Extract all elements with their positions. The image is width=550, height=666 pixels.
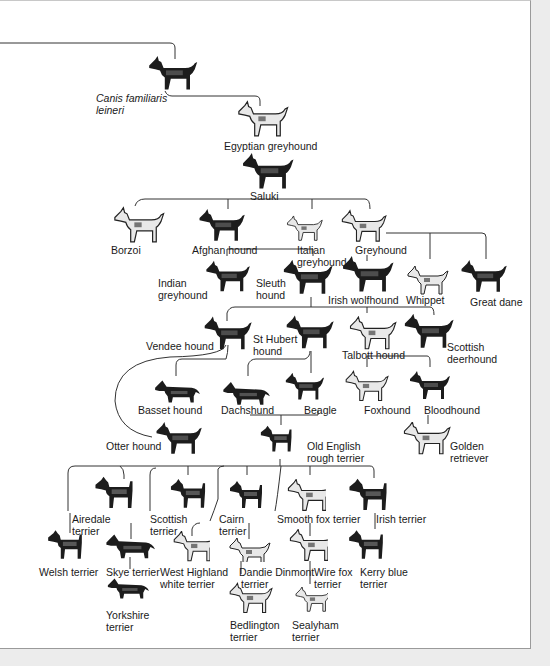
- dog-illustration-irishterrier: [346, 477, 390, 515]
- label-irishterrier: Irish terrier: [376, 514, 426, 526]
- dog-illustration-yorkshire: [105, 576, 149, 602]
- dog-illustration-indian: [202, 257, 252, 297]
- label-saluki: Saluki: [250, 191, 279, 203]
- label-oldenglish: Old English rough terrier: [307, 441, 364, 464]
- dog-illustration-kerry: [346, 529, 386, 563]
- dog-illustration-smoothfox: [284, 479, 326, 513]
- label-egyptian: Egyptian greyhound: [224, 141, 317, 153]
- label-whippet: Whippet: [406, 295, 445, 307]
- label-italian: Italian greyhound: [297, 245, 347, 268]
- label-sthubert: St Hubert hound: [253, 334, 297, 357]
- label-foxhound: Foxhound: [364, 405, 411, 417]
- dog-illustration-saluki: [238, 153, 296, 191]
- dog-illustration-greatdane: [457, 257, 509, 297]
- dog-illustration-beagle: [282, 369, 326, 405]
- label-borzoi: Borzoi: [111, 245, 141, 257]
- label-bloodhound: Bloodhound: [424, 405, 480, 417]
- dog-illustration-wirefox: [286, 529, 328, 563]
- label-westie: West Highland white terrier: [160, 567, 228, 590]
- label-welsh: Welsh terrier: [39, 567, 98, 579]
- label-yorkshire: Yorkshire terrier: [106, 610, 149, 633]
- dog-illustration-afghan: [195, 206, 247, 246]
- dog-illustration-basset: [152, 378, 200, 406]
- label-airedale: Airedale terrier: [72, 514, 111, 537]
- label-scotdeer: Scottish deerhound: [447, 342, 497, 365]
- label-greyhound: Greyhound: [355, 245, 407, 257]
- dog-illustration-golden: [396, 422, 456, 456]
- dog-illustration-skye: [103, 533, 155, 561]
- label-indian: Indian greyhound: [158, 278, 208, 301]
- label-sealyham: Sealyham terrier: [292, 620, 339, 643]
- dog-illustration-bloodhound: [406, 367, 452, 405]
- label-scottish: Scottish terrier: [150, 514, 187, 537]
- dog-illustration-foxhound: [342, 369, 390, 405]
- label-kerry: Kerry blue terrier: [360, 567, 408, 590]
- label-skye: Skye terrier: [106, 567, 160, 579]
- dog-illustration-scottish: [166, 479, 210, 511]
- dog-illustration-airedale: [92, 473, 136, 515]
- label-wirefox: Wire fox terrier: [314, 567, 353, 590]
- label-dachshund: Dachshund: [221, 405, 274, 417]
- label-golden: Golden retriever: [450, 441, 489, 464]
- label-irishwolf: Irish wolfhound: [328, 295, 399, 307]
- dog-illustration-cairn: [226, 481, 266, 511]
- label-canis: Canis familiaris leineri: [96, 93, 167, 116]
- label-otter: Otter hound: [106, 441, 161, 453]
- label-sleuth: Sleuth hound: [256, 278, 286, 301]
- diagram-page: Canis familiaris leineri Egyptian greyho…: [0, 0, 531, 649]
- dog-illustration-sealyham: [290, 587, 328, 613]
- dog-illustration-italian: [284, 211, 324, 247]
- label-dandie: Dandie Dinmont terrier: [239, 567, 314, 590]
- dog-illustration-egyptian: [234, 99, 290, 141]
- label-bedlington: Bedlington terrier: [230, 620, 280, 643]
- dog-illustration-greyhound: [338, 208, 388, 246]
- dog-illustration-oldenglish: [258, 421, 302, 459]
- label-smoothfox: Smooth fox terrier: [277, 514, 360, 526]
- dog-illustration-talbott: [346, 316, 398, 352]
- label-beagle: Beagle: [304, 405, 337, 417]
- dog-illustration-otter: [152, 419, 204, 459]
- label-cairn: Cairn terrier: [219, 514, 246, 537]
- label-basset: Basset hound: [138, 405, 202, 417]
- label-talbott: Talbott hound: [342, 350, 405, 362]
- dog-illustration-borzoi: [110, 206, 166, 246]
- dog-illustration-canis: [144, 56, 200, 92]
- label-afghan: Afghan hound: [192, 245, 257, 257]
- label-vendee: Vendee hound: [146, 341, 214, 353]
- dog-illustration-dandie: [226, 538, 272, 562]
- label-greatdane: Great dane: [470, 297, 523, 309]
